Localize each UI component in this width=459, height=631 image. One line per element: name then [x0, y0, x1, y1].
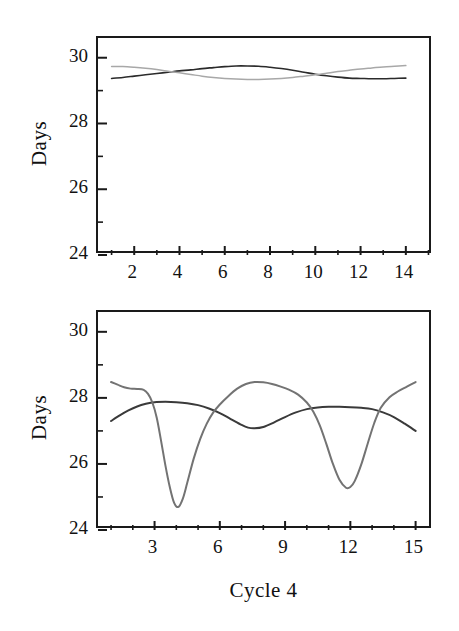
y-tick-label: 24	[42, 518, 88, 537]
x-axis-title: Cycle 4	[96, 578, 431, 603]
x-tick-label: 9	[261, 537, 305, 556]
x-tick-label: 2	[110, 262, 154, 281]
series-gray-curve-bottom	[111, 382, 416, 507]
x-tick-label: 8	[246, 262, 290, 281]
series-light-curve-top	[112, 66, 406, 80]
x-tick-label: 14	[382, 262, 426, 281]
y-tick-label: 30	[42, 320, 88, 339]
plot-frame-top	[96, 36, 431, 253]
y-axis-title-bottom: Days	[27, 373, 52, 463]
y-axis-title-top: Days	[27, 98, 52, 188]
x-tick-label: 3	[131, 537, 175, 556]
x-tick-label: 6	[196, 537, 240, 556]
plot-frame-bottom	[96, 310, 431, 528]
x-tick-label: 12	[337, 262, 381, 281]
x-tick-label: 4	[155, 262, 199, 281]
x-tick-label: 6	[201, 262, 245, 281]
x-tick-label: 12	[326, 537, 370, 556]
plot-area-top	[98, 38, 433, 255]
series-dark-curve-top	[112, 66, 406, 79]
figure-container: 242628302468101214 Days 242628303691215 …	[0, 0, 459, 631]
y-tick-label: 30	[42, 46, 88, 65]
x-tick-label: 10	[291, 262, 335, 281]
y-tick-label: 24	[42, 243, 88, 262]
x-tick-label: 15	[392, 537, 436, 556]
plot-area-bottom	[98, 312, 433, 530]
